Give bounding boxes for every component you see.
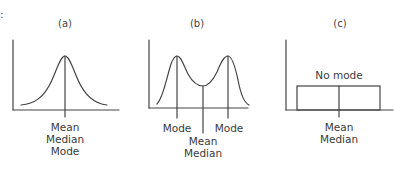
panel-a-title: (a)	[58, 18, 72, 29]
panel-b-title: (b)	[190, 18, 204, 29]
panel-a-label-mode: Mode	[51, 145, 80, 157]
panel-c-title: (c)	[333, 18, 346, 29]
panel-b-graphics	[149, 40, 249, 133]
panel-a-graphics	[13, 40, 119, 117]
panel-c-label-no-mode: No mode	[315, 69, 362, 81]
panel-c-label-median: Median	[320, 133, 358, 145]
panel-c-label-mean: Mean	[325, 121, 354, 133]
panel-a-label-mean: Mean	[51, 121, 80, 133]
panel-a-label-median: Median	[46, 133, 84, 145]
panel-b-label-mode-right: Mode	[215, 122, 244, 134]
distribution-shapes-figure: :	[0, 0, 395, 170]
panel-b-label-mean: Mean	[189, 135, 218, 147]
panel-a-bell-curve	[21, 56, 107, 105]
panel-b-label-mode-left: Mode	[163, 122, 192, 134]
panel-b-label-median: Median	[184, 147, 222, 159]
